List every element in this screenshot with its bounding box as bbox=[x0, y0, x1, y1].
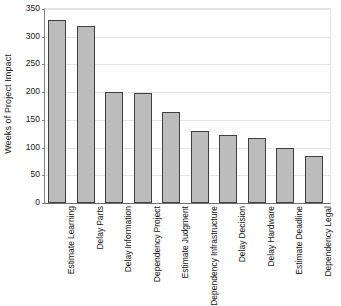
y-axis-tick-label: 0 bbox=[16, 198, 40, 207]
y-axis-tick-label: 150 bbox=[16, 115, 40, 124]
plot-area bbox=[44, 8, 331, 204]
bar bbox=[134, 93, 152, 203]
y-axis-tick-mark bbox=[42, 203, 45, 204]
x-axis-category-labels: EstimateLearningDelayPartsDelayInformati… bbox=[44, 206, 331, 277]
x-axis-label-line-1: Dependency bbox=[322, 229, 334, 277]
bar bbox=[162, 112, 180, 203]
bar bbox=[276, 148, 294, 203]
x-axis-label-line-1: Estimate bbox=[293, 242, 305, 275]
bar bbox=[105, 92, 123, 203]
bar bbox=[191, 131, 209, 203]
y-axis-tick-label: 350 bbox=[16, 4, 40, 13]
y-axis-title-text: Weeks of Project Impact bbox=[3, 54, 13, 154]
x-axis-label-line-1: Estimate bbox=[65, 241, 77, 274]
x-axis-label-line-1: Dependency bbox=[151, 234, 163, 282]
x-axis-label-line-1: Delay bbox=[236, 241, 248, 263]
x-axis-category-label: EstimateLearning bbox=[65, 206, 91, 276]
x-axis-label-line-2: Learning bbox=[65, 206, 77, 239]
y-axis-tick-label: 250 bbox=[16, 59, 40, 68]
x-axis-label-line-1: Dependency bbox=[208, 258, 220, 306]
x-axis-category-label: DependencyInfrastructure bbox=[208, 206, 234, 276]
x-axis-label-line-2: Decision bbox=[236, 206, 248, 239]
x-axis-label-line-1: Delay bbox=[122, 251, 134, 273]
bars-layer bbox=[45, 9, 330, 203]
x-axis-label-line-2: Parts bbox=[94, 206, 106, 226]
x-axis-category-label: DelayHardware bbox=[265, 206, 291, 276]
x-axis-label-line-1: Delay bbox=[265, 245, 277, 267]
y-axis-tick-label: 300 bbox=[16, 31, 40, 40]
x-axis-label-line-2: Project bbox=[151, 206, 163, 232]
x-axis-label-line-1: Delay bbox=[94, 228, 106, 250]
x-axis-label-line-2: Hardware bbox=[265, 206, 277, 243]
x-axis-label-line-1: Estimate bbox=[179, 245, 191, 278]
bar bbox=[248, 138, 266, 203]
bar bbox=[48, 20, 66, 203]
bar bbox=[77, 26, 95, 203]
x-axis-category-label: DelayInformation bbox=[122, 206, 148, 276]
y-axis-tick-label: 100 bbox=[16, 142, 40, 151]
x-axis-category-label: EstimateDeadline bbox=[293, 206, 319, 276]
x-axis-label-line-2: Infrastructure bbox=[208, 206, 220, 256]
x-axis-category-label: DependencyLegal bbox=[322, 206, 341, 276]
bar bbox=[305, 156, 323, 203]
y-axis-tick-label: 200 bbox=[16, 87, 40, 96]
x-axis-label-line-2: Information bbox=[122, 206, 134, 249]
x-axis-label-line-2: Legal bbox=[322, 206, 334, 227]
bar bbox=[219, 135, 237, 203]
x-axis-label-line-2: Judgment bbox=[179, 206, 191, 243]
x-axis-label-line-2: Deadline bbox=[293, 206, 305, 240]
y-axis-tick-label: 50 bbox=[16, 170, 40, 179]
x-axis-category-label: DelayParts bbox=[94, 206, 120, 276]
y-axis-title: Weeks of Project Impact bbox=[0, 0, 16, 208]
x-axis-category-label: DelayDecision bbox=[236, 206, 262, 276]
y-axis-tick-labels: 050100150200250300350 bbox=[16, 0, 40, 208]
x-axis-category-label: DependencyProject bbox=[151, 206, 177, 276]
x-axis-category-label: EstimateJudgment bbox=[179, 206, 205, 276]
